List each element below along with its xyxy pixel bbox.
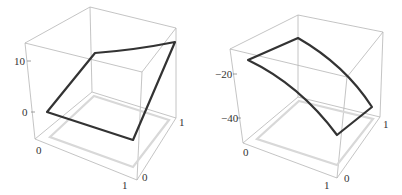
y-tick-label-1: 1 <box>179 116 185 128</box>
surface-boundary <box>248 38 372 135</box>
z-tick-label-0: 0 <box>22 106 28 118</box>
x-tick-label-0: 0 <box>36 144 42 156</box>
surface-boundary <box>47 42 175 140</box>
bounding-box <box>230 15 383 178</box>
surface-plot-right: −20 −40 0 1 0 1 <box>200 0 402 195</box>
y-tick-label-1: 1 <box>383 118 389 130</box>
x-tick-label-0: 0 <box>243 146 249 158</box>
y-tick-label-0: 0 <box>142 171 148 183</box>
surface-plot-left: 10 0 0 1 0 1 <box>0 0 200 195</box>
x-tick-label-1: 1 <box>122 179 128 191</box>
z-tick-label-neg40: −40 <box>221 112 239 124</box>
y-tick-label-0: 0 <box>344 172 350 184</box>
z-tick-label-10: 10 <box>14 55 26 67</box>
floor-projection <box>257 101 373 165</box>
x-tick-label-1: 1 <box>324 179 330 191</box>
z-tick-label-neg20: −20 <box>215 68 233 80</box>
